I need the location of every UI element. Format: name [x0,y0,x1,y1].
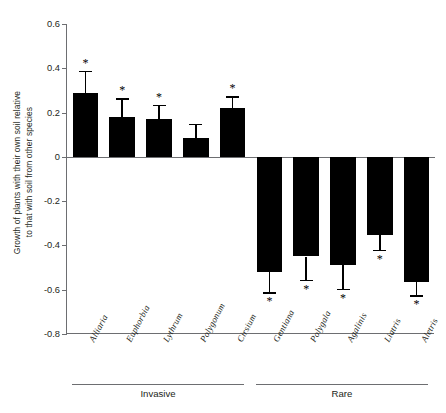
y-axis-tick [62,290,67,291]
bar-gentiana [257,157,283,272]
error-bar-cap-polygonum [189,124,202,126]
error-bar-polygonum [195,124,197,138]
bar-polygonum [183,138,209,157]
error-bar-cap-euphorbia [116,98,129,100]
y-axis-tick [62,24,67,25]
y-axis-tick-label: -0.4 [0,240,60,250]
significance-marker-polygala: * [303,285,309,293]
y-axis-tick-label: 0.2 [0,108,60,118]
bar-cirsium [220,108,246,157]
group-bracket-line-invasive [72,384,245,385]
plot-area: 0.60.40.20-0.2-0.4-0.6-0.8********* [66,24,434,334]
error-bar-cap-alliaria [79,71,92,73]
y-axis-tick [62,113,67,114]
bar-aletris [404,157,430,282]
error-bar-aletris [416,282,418,295]
error-bar-euphorbia [121,98,123,117]
group-label-invasive: Invasive [140,388,175,399]
error-bar-cap-lythrum [153,105,166,107]
y-axis-tick [62,334,67,335]
significance-marker-agalinis: * [340,294,346,302]
error-bar-polygala [305,257,307,280]
error-bar-cap-cirsium [226,96,239,98]
y-axis-tick [62,245,67,246]
significance-marker-euphorbia: * [119,86,125,94]
y-axis-tick-label: -0.6 [0,285,60,295]
error-bar-lythrum [158,105,160,119]
error-bar-agalinis [342,265,344,288]
y-axis-tick [62,68,67,69]
y-axis-tick-label: 0 [0,152,60,162]
bar-agalinis [330,157,356,266]
bar-alliaria [73,93,99,157]
bar-polygala [293,157,319,257]
bar-euphorbia [109,117,135,157]
significance-marker-aletris: * [414,300,420,308]
error-bar-alliaria [85,71,87,93]
error-bar-liatris [379,235,381,249]
group-bracket-line-rare [256,384,429,385]
y-axis-tick-label: -0.8 [0,329,60,339]
error-bar-gentiana [269,272,271,292]
y-axis-tick-label: 0.6 [0,19,60,29]
figure-panel: Growth of plants with their own soil rel… [0,0,446,413]
bar-liatris [367,157,393,236]
significance-marker-liatris: * [377,255,383,263]
bar-lythrum [146,119,172,157]
y-axis-tick [62,201,67,202]
significance-marker-alliaria: * [82,59,88,67]
y-axis-tick-label: 0.4 [0,63,60,73]
significance-marker-gentiana: * [266,297,272,305]
error-bar-cirsium [232,96,234,108]
y-axis-tick-label: -0.2 [0,196,60,206]
group-label-rare: Rare [332,388,353,399]
significance-marker-cirsium: * [230,84,236,92]
significance-marker-lythrum: * [156,93,162,101]
